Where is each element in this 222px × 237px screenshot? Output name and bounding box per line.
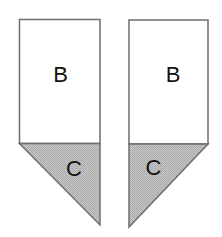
left-label-b: B xyxy=(53,62,68,87)
left-label-c: C xyxy=(66,156,82,181)
diagram-canvas: B C B C xyxy=(0,0,222,237)
left-triangle-c xyxy=(20,144,101,226)
right-label-b: B xyxy=(166,62,181,87)
left-shape: B C xyxy=(20,20,101,226)
right-triangle-c xyxy=(129,144,208,227)
right-label-c: C xyxy=(146,155,162,180)
right-shape: B C xyxy=(129,20,208,227)
